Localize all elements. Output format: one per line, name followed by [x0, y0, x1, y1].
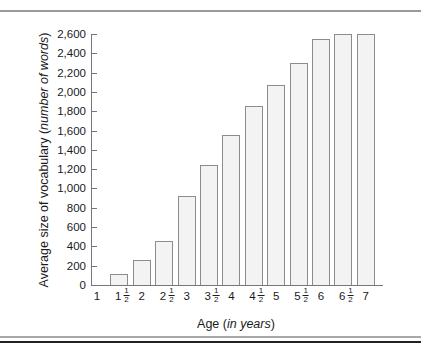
- y-tick-label: 1,200: [57, 163, 86, 175]
- x-tick-label: 312: [205, 287, 220, 304]
- y-tick-label: 400: [67, 240, 86, 252]
- y-tick-label: 1,400: [57, 144, 86, 156]
- y-tick: [92, 188, 97, 189]
- x-tick-label: 1: [94, 290, 100, 302]
- y-tick: [92, 131, 97, 132]
- x-tick-label: 5: [273, 290, 279, 302]
- bottom-rule-light: [0, 336, 421, 338]
- x-tick-label: 112: [115, 287, 130, 304]
- x-tick-label: 3: [183, 290, 189, 302]
- x-tick-label: 212: [160, 287, 175, 304]
- bar: [133, 260, 151, 285]
- bar: [200, 165, 218, 285]
- x-tick-label: 4: [228, 290, 234, 302]
- y-tick: [92, 92, 97, 93]
- x-tick-label: 2: [139, 290, 145, 302]
- x-tick-label: 7: [363, 290, 369, 302]
- y-tick: [92, 34, 97, 35]
- y-tick-label: 200: [67, 260, 86, 272]
- y-tick-label: 600: [67, 221, 86, 233]
- y-tick-label: 1,800: [57, 105, 86, 117]
- y-tick-label: 800: [67, 202, 86, 214]
- y-tick-label: 2,400: [57, 47, 86, 59]
- bar: [245, 106, 263, 285]
- bar: [155, 241, 173, 285]
- y-tick: [92, 111, 97, 112]
- x-axis: [91, 285, 383, 286]
- bar: [110, 274, 128, 285]
- y-tick: [92, 169, 97, 170]
- x-axis-label-unit: in years: [227, 317, 271, 331]
- bar: [290, 63, 308, 285]
- y-tick: [92, 246, 97, 247]
- x-axis-label-text: Age (: [197, 317, 227, 331]
- y-tick: [92, 266, 97, 267]
- x-tick-label: 6: [318, 290, 324, 302]
- y-tick-label: 2,600: [57, 28, 86, 40]
- bar-chart: 02004006008001,0001,2001,4001,6001,8002,…: [0, 0, 421, 349]
- y-axis: [91, 34, 92, 285]
- y-tick-label: 0: [80, 279, 86, 291]
- bar: [222, 135, 240, 285]
- x-axis-label-close: ): [271, 317, 275, 331]
- x-axis-label: Age (in years): [197, 317, 275, 331]
- y-tick-label: 1,000: [57, 182, 86, 194]
- x-tick-label: 612: [339, 287, 354, 304]
- bar: [312, 39, 330, 285]
- bar: [178, 196, 196, 285]
- y-tick-label: 2,200: [57, 67, 86, 79]
- y-tick: [92, 208, 97, 209]
- bottom-rule-dark: [0, 341, 421, 343]
- bar: [334, 34, 352, 285]
- x-tick-label: 512: [294, 287, 309, 304]
- y-tick: [92, 53, 97, 54]
- y-tick: [92, 150, 97, 151]
- bar: [357, 34, 375, 285]
- y-tick: [92, 73, 97, 74]
- y-tick: [92, 227, 97, 228]
- x-tick-label: 412: [249, 287, 264, 304]
- bar: [267, 85, 285, 285]
- y-tick-label: 1,600: [57, 125, 86, 137]
- y-tick: [92, 285, 97, 286]
- y-tick-label: 2,000: [57, 86, 86, 98]
